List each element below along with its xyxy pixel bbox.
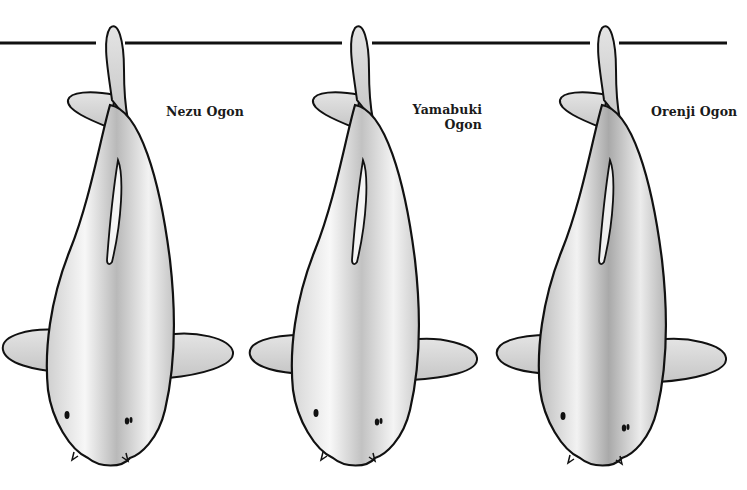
- koi-illustration: [0, 0, 747, 490]
- label-text-line-1: Yamabuki: [402, 102, 482, 117]
- koi-yamabuki-ogon: [250, 26, 477, 465]
- koi-nezu-ogon: [3, 26, 233, 465]
- label-orenji-ogon: Orenji Ogon: [651, 104, 737, 119]
- label-text: Nezu Ogon: [166, 104, 244, 119]
- label-yamabuki-ogon: Yamabuki Ogon: [402, 102, 482, 132]
- koi-orenji-ogon: [497, 26, 726, 465]
- label-nezu-ogon: Nezu Ogon: [166, 104, 244, 119]
- label-text: Orenji Ogon: [651, 104, 737, 119]
- label-text-line-2: Ogon: [402, 117, 482, 132]
- koi-figure: Nezu Ogon Yamabuki Ogon Orenji Ogon: [0, 0, 747, 490]
